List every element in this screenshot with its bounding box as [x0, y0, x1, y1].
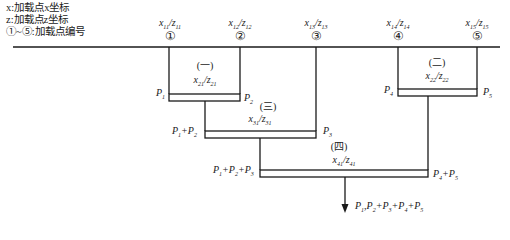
beam-2-right-load: P5: [483, 86, 492, 99]
beam-3-right-load: P3: [323, 125, 332, 138]
beam-4-coord: x41/z41: [332, 154, 355, 167]
load-point-4-num: ④: [393, 29, 404, 44]
load-point-2-num: ②: [235, 29, 246, 44]
beam-3-coord: x31/z31: [248, 113, 271, 126]
beam-2-coord: x22/z22: [425, 70, 448, 83]
beam-2-group: (二): [429, 54, 446, 69]
load-point-1-num: ①: [165, 29, 176, 44]
load-point-3-num: ③: [311, 29, 322, 44]
beam-4-left-load: P1+P2+P3: [213, 164, 254, 177]
beam-1-left-load: P1: [156, 87, 165, 100]
beam-1-coord: x21/z21: [193, 74, 216, 87]
beam-3-group: (三): [260, 98, 277, 113]
beam-3: [205, 131, 316, 138]
arrow-down-icon: [342, 204, 349, 213]
beam-2-left-load: P4: [384, 84, 393, 97]
beam-4: [260, 170, 428, 177]
beam-4-group: (四): [331, 138, 348, 153]
beam-1: [169, 94, 240, 101]
resultant-load: P1,P2+P3+P4+P5: [355, 200, 423, 213]
load-point-5-num: ⑤: [472, 29, 483, 44]
beam-1-group: (一): [197, 57, 214, 72]
beam-2: [398, 89, 477, 96]
beam-3-left-load: P1+P2: [172, 125, 197, 138]
beam-1-right-load: P2: [244, 92, 253, 105]
beam-4-right-load: P4+P5: [433, 168, 458, 181]
